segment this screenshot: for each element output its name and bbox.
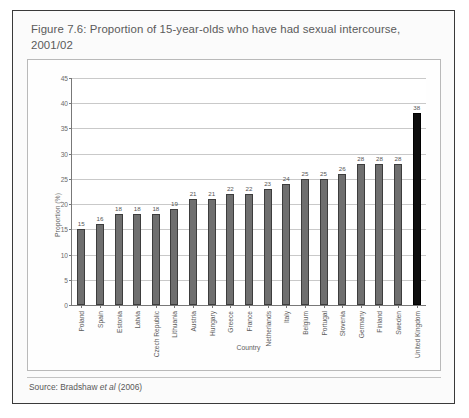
category-label: Portugal bbox=[324, 286, 331, 311]
category-label: Finland bbox=[379, 289, 386, 311]
category-label: Spain bbox=[100, 294, 107, 311]
category-label-text: Slovenia bbox=[339, 311, 346, 336]
bar-group[interactable]: 22France bbox=[240, 78, 259, 305]
category-label: Italy bbox=[286, 299, 293, 311]
category-label-text: Belgium bbox=[301, 311, 308, 335]
category-label: Sweden bbox=[398, 287, 405, 311]
category-label: Czech Republic bbox=[156, 265, 163, 311]
category-label: Slovenia bbox=[342, 286, 349, 311]
y-tick-label: 25 bbox=[61, 175, 68, 182]
category-label: Lithuania bbox=[174, 284, 181, 311]
bar-group[interactable]: 18Latvia bbox=[128, 78, 147, 305]
category-label-text: Lithuania bbox=[171, 311, 178, 338]
bar-value-label: 16 bbox=[96, 215, 103, 222]
category-label: Austria bbox=[193, 290, 200, 311]
category-label-text: Poland bbox=[78, 311, 85, 332]
bar-value-label: 21 bbox=[190, 190, 197, 197]
category-label-text: Hungary bbox=[208, 311, 215, 336]
bar[interactable] bbox=[133, 214, 141, 305]
bar-group[interactable]: 22Greece bbox=[221, 78, 240, 305]
bar-value-label: 24 bbox=[283, 175, 290, 182]
bar-value-label: 28 bbox=[376, 155, 383, 162]
y-tick-label: 5 bbox=[64, 276, 68, 283]
x-axis-title: Country bbox=[71, 344, 426, 351]
bar-value-label: 25 bbox=[320, 170, 327, 177]
y-tick-label: 30 bbox=[61, 150, 68, 157]
bar-group[interactable]: 21Austria bbox=[184, 78, 203, 305]
bar-group[interactable]: 21Hungary bbox=[202, 78, 221, 305]
bar-group[interactable]: 25Belgium bbox=[296, 78, 315, 305]
source-prefix: Source: Bradshaw bbox=[29, 382, 100, 392]
category-label: Greece bbox=[230, 289, 237, 311]
bar-group[interactable]: 28Sweden bbox=[389, 78, 408, 305]
figure-frame: Figure 7.6: Proportion of 15-year-olds w… bbox=[12, 10, 455, 404]
category-label: Estonia bbox=[119, 289, 126, 311]
category-label: Hungary bbox=[212, 286, 219, 311]
bar-group[interactable]: 28Finland bbox=[370, 78, 389, 305]
bar-group[interactable]: 16Spain bbox=[91, 78, 110, 305]
category-label: Latvia bbox=[137, 293, 144, 311]
y-tick-label: 40 bbox=[61, 100, 68, 107]
category-label: France bbox=[249, 290, 256, 311]
y-tick-label: 45 bbox=[61, 75, 68, 82]
bar-group[interactable]: 18Czech Republic bbox=[147, 78, 166, 305]
bar-value-label: 23 bbox=[264, 180, 271, 187]
category-label: Poland bbox=[81, 290, 88, 311]
bar-value-label: 26 bbox=[339, 165, 346, 172]
bar-group[interactable]: 15Poland bbox=[72, 78, 91, 305]
bar-group[interactable]: 25Portugal bbox=[314, 78, 333, 305]
bar[interactable] bbox=[189, 199, 197, 305]
bar[interactable] bbox=[301, 179, 309, 305]
source-note: Source: Bradshaw et al (2006) bbox=[29, 382, 142, 392]
chart-panel: Proportion (%) 051015202530354045 15Pola… bbox=[27, 59, 441, 371]
y-tick-label: 15 bbox=[61, 226, 68, 233]
category-label-text: Netherlands bbox=[264, 311, 271, 347]
category-label-text: Germany bbox=[357, 311, 364, 338]
bar-value-label: 19 bbox=[171, 200, 178, 207]
source-italic: et al bbox=[100, 382, 116, 392]
bar-group[interactable]: 24Italy bbox=[277, 78, 296, 305]
bar-group[interactable]: 18Estonia bbox=[109, 78, 128, 305]
y-tick-mark bbox=[69, 305, 72, 306]
category-label: Netherlands bbox=[268, 275, 275, 311]
bar[interactable] bbox=[96, 224, 104, 305]
bar[interactable] bbox=[394, 164, 402, 305]
bar-group[interactable]: 19Lithuania bbox=[165, 78, 184, 305]
category-label-text: France bbox=[245, 311, 252, 332]
category-label-text: Latvia bbox=[134, 311, 141, 329]
bar-group[interactable]: 38United Kingdom bbox=[407, 78, 426, 305]
bar-value-label: 28 bbox=[357, 155, 364, 162]
bar[interactable] bbox=[375, 164, 383, 305]
source-suffix: (2006) bbox=[116, 382, 143, 392]
bar-value-label: 22 bbox=[246, 185, 253, 192]
bar-value-label: 22 bbox=[227, 185, 234, 192]
bars-layer: 15Poland16Spain18Estonia18Latvia18Czech … bbox=[72, 78, 426, 305]
bar-value-label: 28 bbox=[395, 155, 402, 162]
bar-value-label: 18 bbox=[115, 205, 122, 212]
bar-value-label: 38 bbox=[413, 104, 420, 111]
y-tick-label: 10 bbox=[61, 251, 68, 258]
bar[interactable] bbox=[282, 184, 290, 305]
y-tick-label: 35 bbox=[61, 125, 68, 132]
category-label-text: Greece bbox=[227, 311, 234, 333]
bar-value-label: 18 bbox=[134, 205, 141, 212]
plot-area: 051015202530354045 15Poland16Spain18Esto… bbox=[71, 78, 426, 306]
category-label: United Kingdom bbox=[417, 264, 424, 311]
bar-value-label: 21 bbox=[208, 190, 215, 197]
category-label-text: Finland bbox=[376, 311, 383, 333]
category-label: Germany bbox=[361, 284, 368, 311]
bar-group[interactable]: 23Netherlands bbox=[258, 78, 277, 305]
category-label-text: Austria bbox=[190, 311, 197, 332]
category-label-text: Spain bbox=[96, 311, 103, 328]
bar[interactable] bbox=[245, 194, 253, 305]
bar[interactable] bbox=[226, 194, 234, 305]
figure-title: Figure 7.6: Proportion of 15-year-olds w… bbox=[31, 21, 431, 53]
category-label-text: Italy bbox=[283, 311, 290, 323]
bar-group[interactable]: 26Slovenia bbox=[333, 78, 352, 305]
bar-value-label: 25 bbox=[301, 170, 308, 177]
bar-group[interactable]: 28Germany bbox=[351, 78, 370, 305]
category-label-text: Portugal bbox=[320, 311, 327, 336]
y-tick-label: 0 bbox=[64, 302, 68, 309]
y-tick-label: 20 bbox=[61, 201, 68, 208]
bar-value-label: 15 bbox=[78, 220, 85, 227]
